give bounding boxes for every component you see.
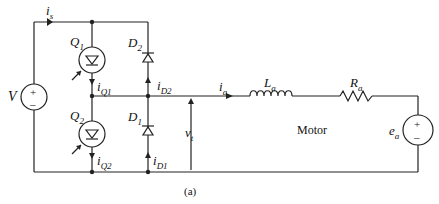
ea-minus: – [414,132,420,143]
id1-label: iD1 [153,154,168,171]
iq1-label: iQ1 [97,80,112,97]
id2-label: iD2 [157,79,172,96]
caption: (a) [184,186,196,197]
q2-label: Q2 [70,109,84,126]
la-label: La [264,76,276,93]
ia-label: ia [219,80,227,97]
d2-label: D2 [128,36,142,53]
motor-label: Motor [297,124,327,136]
v-plus: + [30,87,36,98]
source-v-label: V [8,90,17,104]
ra-label: Ra [350,76,362,93]
iq2-label: iQ2 [97,154,112,171]
circuit-diagram [0,0,439,204]
vt-label: vt [185,126,193,143]
v-minus: – [30,99,36,110]
ea-plus: + [414,119,420,130]
d1-label: D1 [128,110,142,127]
q1-label: Q1 [70,35,84,52]
ea-label: ea [389,124,399,141]
is-label: is [46,4,53,21]
